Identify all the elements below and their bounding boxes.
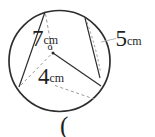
label-5cm-value: 5	[116, 26, 128, 51]
label-4cm: 4cm	[38, 64, 65, 89]
center-point-dot	[52, 52, 55, 55]
label-5cm-unit: cm	[127, 34, 142, 48]
circle-outline	[9, 11, 110, 112]
geometry-figure: o 7cm 5cm 4cm (	[0, 0, 155, 137]
label-7cm: 7cm	[32, 26, 59, 51]
label-4cm-value: 4	[38, 64, 50, 89]
answer-paren: (	[60, 112, 68, 137]
label-7cm-value: 7	[32, 26, 44, 51]
label-4cm-unit: cm	[50, 71, 65, 85]
label-7cm-unit: cm	[44, 33, 59, 47]
label-5cm: 5cm	[116, 26, 143, 51]
math-problem-figure: o 7cm 5cm 4cm (	[0, 0, 155, 137]
dashed-line-bottom	[55, 86, 94, 100]
label-leader-line	[101, 39, 116, 43]
